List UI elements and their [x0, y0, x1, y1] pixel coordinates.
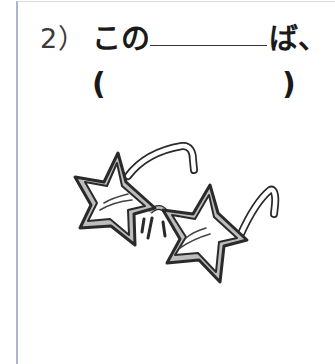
right-star-lens-icon — [163, 185, 247, 282]
star-glasses-illustration — [0, 0, 335, 364]
left-temple-arm-icon — [128, 146, 194, 176]
right-temple-arm-icon — [240, 190, 275, 236]
